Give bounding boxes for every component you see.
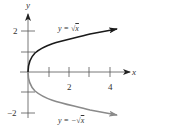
x-tick-label-4: 4 bbox=[108, 82, 113, 92]
lower-curve-label: y = −√x bbox=[58, 116, 84, 125]
y-tick-label-neg2: −2 bbox=[7, 108, 17, 118]
upper-eq-prefix: y = bbox=[58, 24, 71, 33]
upper-curve-label: y = √x bbox=[58, 24, 79, 33]
lower-eq-var: x bbox=[81, 116, 85, 125]
upper-curve-sqrt-x bbox=[28, 29, 117, 72]
y-tick-label-2: 2 bbox=[13, 26, 18, 36]
y-axis-label: y bbox=[25, 0, 30, 10]
x-axis-label: x bbox=[131, 67, 136, 77]
lower-curve-neg-sqrt-x bbox=[28, 72, 117, 115]
parabola-chart: 2 4 2 −2 y x bbox=[0, 0, 184, 130]
upper-eq-var: x bbox=[75, 24, 79, 33]
lower-eq-prefix: y = − bbox=[58, 116, 76, 125]
x-tick-label-2: 2 bbox=[67, 82, 72, 92]
